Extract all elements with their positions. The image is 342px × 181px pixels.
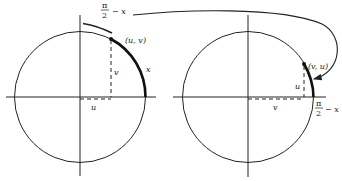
right-arc-two: 2 (316, 109, 321, 118)
left-bracket-pi: π (102, 1, 107, 10)
right-v-label: v (273, 103, 278, 112)
unit-circle-symmetry-diagram: (u, v) v u x π 2 − x (v, u) u v π 2 − x (0, 0, 342, 181)
right-circle-group: (v, u) u v π 2 − x (173, 15, 339, 177)
right-arc-pi: π (316, 99, 321, 108)
right-point-label: (v, u) (308, 62, 328, 71)
left-v-label: v (114, 68, 119, 77)
left-circle-group: (u, v) v u x π 2 − x (6, 1, 156, 176)
left-point-uv (109, 37, 113, 41)
left-u-label: u (91, 103, 96, 112)
left-bracket-two: 2 (102, 11, 107, 20)
left-point-label: (u, v) (125, 36, 146, 45)
left-bracket-suffix: − x (112, 7, 126, 16)
left-x-arc-label: x (146, 65, 151, 74)
right-arc-suffix: − x (325, 105, 339, 114)
right-point-vu (302, 62, 306, 66)
right-u-label: u (295, 82, 300, 91)
